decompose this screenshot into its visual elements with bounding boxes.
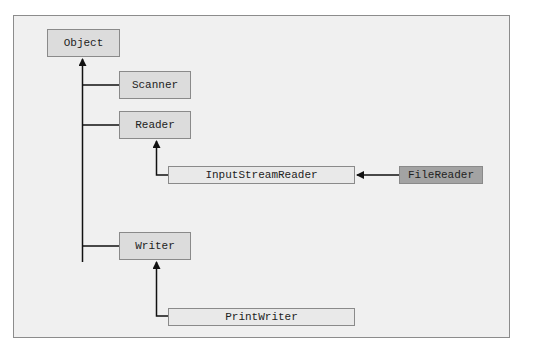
class-node-writer: Writer: [119, 232, 191, 260]
class-node-scanner: Scanner: [119, 71, 191, 99]
class-label: InputStreamReader: [205, 169, 317, 181]
class-label: Scanner: [132, 79, 178, 91]
class-label: Writer: [135, 240, 175, 252]
class-label: PrintWriter: [225, 311, 298, 323]
class-label: Reader: [135, 119, 175, 131]
class-node-object: Object: [47, 29, 120, 57]
class-label: FileReader: [408, 169, 474, 181]
class-node-filereader: FileReader: [399, 166, 483, 184]
class-node-inputstreamreader: InputStreamReader: [168, 166, 355, 184]
class-node-printwriter: PrintWriter: [168, 308, 355, 326]
class-node-reader: Reader: [119, 111, 191, 139]
class-label: Object: [64, 37, 104, 49]
